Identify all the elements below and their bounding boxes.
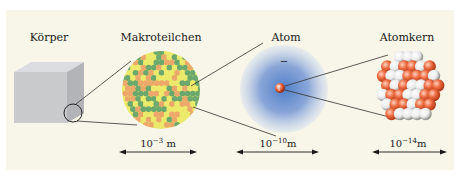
scale-base: 10 xyxy=(140,138,153,149)
scale-exponent: −3 xyxy=(153,137,163,145)
label-makroteilchen: Makroteilchen xyxy=(120,31,201,44)
makroteilchen-sphere xyxy=(120,49,204,129)
scale-label-atomkern: 10−14m xyxy=(390,137,427,149)
cube-body xyxy=(14,62,84,123)
scale-exponent: −14 xyxy=(402,137,417,145)
scale-base: 10 xyxy=(390,138,403,149)
atom-nucleus xyxy=(275,83,285,93)
diagram-artwork xyxy=(0,0,467,177)
scale-base: 10 xyxy=(260,138,273,149)
scale-unit: m xyxy=(166,138,175,149)
scale-arrow-makroteilchen xyxy=(119,150,197,155)
scale-exponent: −10 xyxy=(272,137,287,145)
label-atomkern: Atomkern xyxy=(380,31,435,44)
scale-arrow-atom xyxy=(236,150,319,155)
scale-unit: m xyxy=(417,138,426,149)
electron-symbol: − xyxy=(280,56,288,67)
label-koerper: Körper xyxy=(30,31,69,44)
scale-arrow-atomkern xyxy=(372,150,447,155)
scale-label-atom: 10−10m xyxy=(260,137,297,149)
scale-unit: m xyxy=(287,138,296,149)
label-atom: Atom xyxy=(271,31,300,44)
atomkern-cluster xyxy=(377,51,445,120)
scale-label-makroteilchen: 10−3 m xyxy=(140,137,176,149)
